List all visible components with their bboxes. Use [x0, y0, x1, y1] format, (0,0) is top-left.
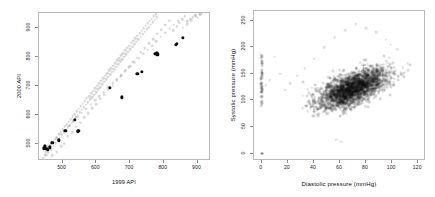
- data-point: [364, 85, 367, 88]
- data-point: [345, 75, 348, 78]
- data-point: [369, 80, 372, 83]
- data-point: [331, 92, 334, 95]
- data-point: [349, 79, 352, 82]
- data-point: [346, 99, 349, 102]
- data-point: [344, 89, 347, 92]
- data-point: [362, 59, 365, 62]
- api-y-axis-title: 2000 API: [17, 74, 23, 98]
- data-point: [375, 83, 378, 86]
- data-point: [351, 85, 354, 88]
- data-point: [260, 78, 263, 81]
- data-point: [367, 74, 370, 77]
- data-point: [367, 93, 370, 96]
- data-point: [354, 77, 357, 80]
- data-point: [361, 91, 364, 94]
- data-point: [375, 87, 378, 90]
- data-point: [360, 88, 363, 91]
- data-point: [381, 72, 384, 75]
- data-point: [365, 75, 368, 78]
- data-point: [345, 96, 348, 99]
- data-point: [330, 92, 333, 95]
- data-point: [367, 69, 370, 72]
- data-point: [341, 74, 344, 77]
- data-point: [356, 88, 359, 91]
- data-point: [330, 107, 333, 110]
- data-point: [57, 133, 60, 136]
- data-point: [335, 96, 338, 99]
- data-point: [362, 90, 365, 93]
- data-point: [359, 91, 362, 94]
- data-point: [81, 108, 84, 111]
- data-point: [339, 87, 342, 90]
- data-point: [347, 91, 350, 94]
- data-point: [348, 91, 351, 94]
- data-point: [346, 102, 349, 105]
- data-point: [348, 75, 351, 78]
- data-point: [376, 78, 379, 81]
- data-point: [342, 99, 345, 102]
- data-point: [312, 99, 315, 102]
- data-point: [374, 87, 377, 90]
- data-point: [339, 107, 342, 110]
- data-point: [324, 99, 327, 102]
- data-point: [352, 86, 355, 89]
- data-point: [364, 84, 367, 87]
- data-point: [346, 96, 349, 99]
- data-point: [349, 87, 352, 90]
- data-point: [344, 90, 347, 93]
- data-point: [369, 73, 372, 76]
- data-point: [359, 81, 362, 84]
- data-point: [344, 102, 347, 105]
- data-point: [337, 106, 340, 109]
- data-point: [350, 83, 353, 86]
- data-point: [103, 80, 106, 83]
- data-point: [361, 86, 364, 89]
- data-point: [374, 68, 377, 71]
- data-point: [328, 107, 331, 110]
- data-point: [370, 74, 373, 77]
- data-point: [356, 92, 359, 95]
- data-point: [360, 80, 363, 83]
- data-point: [314, 99, 317, 102]
- data-point: [71, 115, 74, 118]
- data-point: [333, 90, 336, 93]
- panel-bp-scatter: 050100150200250 020406080100120 Systolic…: [218, 0, 435, 197]
- data-point: [365, 83, 368, 86]
- data-point: [344, 96, 347, 99]
- data-point: [317, 108, 320, 111]
- data-point: [58, 136, 61, 139]
- data-point: [341, 89, 344, 92]
- data-point: [360, 87, 363, 90]
- data-point: [339, 93, 342, 96]
- data-point: [346, 96, 349, 99]
- data-point: [380, 81, 383, 84]
- data-point: [375, 78, 378, 81]
- data-point: [342, 100, 345, 103]
- data-point: [381, 74, 384, 77]
- data-point: [260, 104, 263, 107]
- data-point: [356, 91, 359, 94]
- data-point: [356, 92, 359, 95]
- data-point: [364, 64, 367, 67]
- data-point: [361, 80, 364, 83]
- data-point: [352, 89, 355, 92]
- data-point: [336, 100, 339, 103]
- data-point: [349, 79, 352, 82]
- data-point: [353, 88, 356, 91]
- data-point: [323, 94, 326, 97]
- data-point: [362, 69, 365, 72]
- y-tick-label: 900: [26, 22, 31, 31]
- data-point: [336, 86, 339, 89]
- data-point: [366, 80, 369, 83]
- data-point: [340, 94, 343, 97]
- data-point: [339, 95, 342, 98]
- data-point: [261, 72, 264, 75]
- data-point: [360, 88, 363, 91]
- data-point: [336, 92, 339, 95]
- data-point: [312, 102, 315, 105]
- data-point: [338, 89, 341, 92]
- data-point: [260, 61, 263, 64]
- data-point: [341, 100, 344, 103]
- data-point: [372, 93, 375, 96]
- data-point: [349, 81, 352, 84]
